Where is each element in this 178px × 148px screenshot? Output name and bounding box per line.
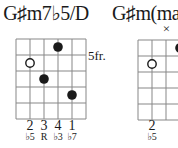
open-note-circle <box>26 59 34 67</box>
finger-dot <box>53 42 63 52</box>
note-role-label: ♭3 <box>53 132 63 142</box>
note-role-label: ♭5 <box>147 132 157 142</box>
open-note-circle <box>148 60 156 68</box>
note-role-label: ♭7 <box>67 132 77 142</box>
finger-dot <box>67 90 77 100</box>
muted-string-mark: × <box>163 22 170 35</box>
finger-dot <box>39 74 49 84</box>
fret-position-label: 5fr. <box>88 49 106 63</box>
chord-title-left: G♯m7♭5/D <box>3 0 88 26</box>
note-role-label: ♭5 <box>25 132 35 142</box>
chord-chart-panel: G♯m7♭5/D G♯m(ma 5fr. 2♭53R4♭31♭72♭5× <box>0 0 178 148</box>
finger-dot <box>175 43 178 53</box>
note-role-label: R <box>41 132 48 142</box>
